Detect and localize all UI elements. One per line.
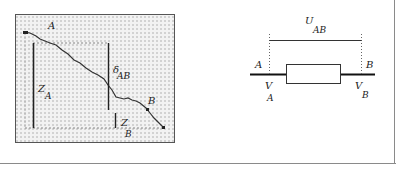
height-b-label-main: Z <box>120 117 129 128</box>
point-a-marker <box>23 31 28 34</box>
node-a-label: A <box>254 59 262 70</box>
potential-b-label-sub: B <box>361 90 369 100</box>
dotted-panel-background <box>16 15 175 143</box>
profile-end-marker <box>162 126 165 129</box>
point-b-marker <box>146 108 149 111</box>
voltage-label-sub: AB <box>312 25 326 35</box>
height-a-label-sub: A <box>44 91 52 101</box>
potential-a-label-main: V <box>265 80 274 91</box>
point-b-label: B <box>147 95 155 106</box>
terrain-profile-panel: A B Z A δ AB Z B <box>16 15 175 143</box>
point-a-label: A <box>47 20 55 31</box>
resistor-box <box>287 65 341 84</box>
figure-canvas: A B Z A δ AB Z B U AB A B V A V B <box>0 0 402 175</box>
delta-label-sub: AB <box>116 71 130 81</box>
resistor-diagram: U AB A B V A V B <box>250 15 375 103</box>
node-b-label: B <box>365 59 373 70</box>
height-b-label-sub: B <box>124 129 132 139</box>
potential-a-label-sub: A <box>266 93 274 103</box>
